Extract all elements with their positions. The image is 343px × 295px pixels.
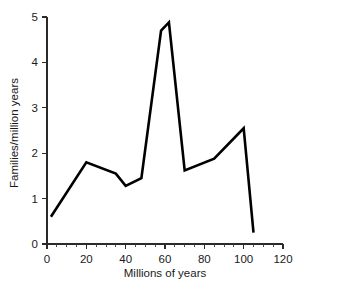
x-axis-tick-labels: 020406080100120 [44, 253, 293, 265]
x-tick-label: 0 [44, 253, 50, 265]
x-tick-label: 100 [234, 253, 253, 265]
y-tick-label: 2 [32, 147, 38, 159]
x-axis-ticks [47, 244, 283, 249]
y-axis-title: Families/million years [8, 78, 20, 188]
chart-container: 012345 020406080100120 Millions of years… [0, 0, 343, 295]
y-tick-label: 5 [32, 11, 38, 23]
x-tick-label: 80 [198, 253, 211, 265]
axes [47, 17, 283, 244]
line-chart: 012345 020406080100120 Millions of years… [0, 0, 343, 295]
x-tick-label: 120 [273, 253, 292, 265]
y-tick-label: 1 [32, 193, 38, 205]
y-axis-tick-labels: 012345 [32, 11, 39, 250]
y-tick-label: 4 [32, 56, 39, 68]
y-axis-ticks [42, 17, 47, 244]
data-series-line [51, 22, 254, 232]
x-tick-label: 20 [80, 253, 93, 265]
data-series-group [51, 22, 254, 232]
y-tick-label: 3 [32, 102, 38, 114]
x-tick-label: 40 [119, 253, 132, 265]
y-tick-label: 0 [32, 238, 38, 250]
x-axis-title: Millions of years [124, 267, 207, 279]
x-tick-label: 60 [159, 253, 172, 265]
